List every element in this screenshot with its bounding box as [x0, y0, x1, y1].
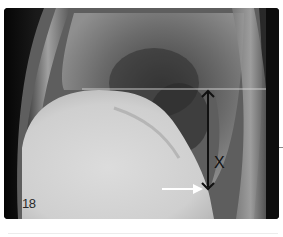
- divider: [8, 233, 278, 234]
- measurement-label-x: X: [214, 154, 225, 172]
- figure-number: 18: [22, 196, 35, 211]
- margin-tick: [279, 147, 283, 148]
- xray-figure: X 18: [4, 8, 279, 219]
- lateral-chest-xray-image: [4, 8, 279, 219]
